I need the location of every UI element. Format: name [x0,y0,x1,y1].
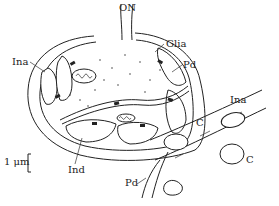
scale-bar-label: 1 μm [4,156,30,167]
diagram-canvas: ON Glia Pd Ina Ina C C Ind Pd 1 μm [0,0,279,206]
ina-cell-left [41,68,57,104]
label-ind: Ind [68,164,85,175]
ina-cell-right [220,110,247,130]
label-c-lower: C [246,154,254,165]
label-ina-right: Ina [230,94,246,105]
pd-cell-bottom [164,180,183,195]
ind-cell [66,120,116,142]
ind-cell-2 [118,122,158,144]
c-cell-lower [220,144,244,164]
mitochondrion-2 [117,114,135,122]
c-cell-upper [164,134,188,150]
label-pd-bottom: Pd [125,177,139,188]
label-ina-left: Ina [12,56,28,67]
synaptic-vesicles [69,54,161,107]
label-glia: Glia [166,38,186,49]
label-pd-top: Pd [183,59,197,70]
synaptic-ribbons [55,59,173,127]
pd-cell-top-left [56,56,72,100]
label-c-upper: C [196,117,204,128]
label-optic-nerve: ON [119,2,136,13]
